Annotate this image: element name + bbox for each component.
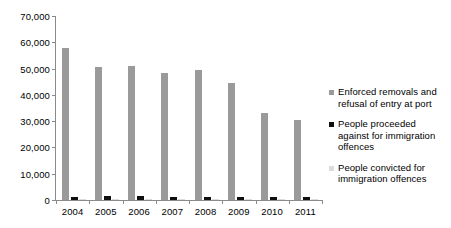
- bar-series2-2005: [104, 196, 111, 200]
- x-axis-tick-mark: [56, 200, 57, 204]
- bar-chart: 010,00020,00030,00040,00050,00060,00070,…: [0, 0, 451, 228]
- legend-swatch-icon-series2: [329, 122, 334, 127]
- bar-series3-2010: [278, 199, 285, 200]
- x-axis-label-2008: 2008: [195, 206, 217, 217]
- x-axis-tick-mark: [289, 200, 290, 204]
- x-axis-tick-mark: [89, 200, 90, 204]
- y-axis-tick-label: 70,000: [20, 11, 56, 22]
- bar-series2-2004: [71, 197, 78, 200]
- chart-legend: Enforced removals and refusal of entry a…: [329, 86, 449, 194]
- bar-group: [189, 16, 222, 200]
- y-axis-tick-label: 40,000: [20, 89, 56, 100]
- x-axis-tick-mark: [156, 200, 157, 204]
- legend-swatch-icon-series3: [329, 166, 334, 171]
- x-axis-label-2011: 2011: [295, 206, 316, 217]
- bar-series2-2008: [204, 197, 211, 200]
- bar-series2-2006: [137, 196, 144, 200]
- bar-series1-2010: [261, 113, 268, 200]
- x-axis-label-2005: 2005: [95, 206, 117, 217]
- bar-series3-2011: [311, 199, 318, 200]
- bar-series3-2007: [178, 199, 185, 200]
- bar-group: [256, 16, 289, 200]
- bar-group: [89, 16, 122, 200]
- bar-group: [289, 16, 322, 200]
- legend-item-people-convicted: People convicted for immigration offence…: [329, 162, 449, 185]
- bar-series2-2011: [303, 197, 310, 200]
- bar-series2-2007: [170, 197, 177, 200]
- bar-group: [123, 16, 156, 200]
- x-axis-tick-mark: [256, 200, 257, 204]
- bar-series3-2008: [212, 199, 219, 200]
- y-axis-tick-label: 10,000: [20, 168, 56, 179]
- x-axis-label-2010: 2010: [261, 206, 283, 217]
- legend-label-series3: People convicted for immigration offence…: [338, 162, 449, 185]
- bar-series2-2009: [237, 197, 244, 200]
- bar-series1-2008: [195, 70, 202, 200]
- bar-series1-2005: [95, 67, 102, 200]
- bar-group: [156, 16, 189, 200]
- bar-series1-2006: [128, 66, 135, 200]
- bar-group: [222, 16, 255, 200]
- y-axis-tick-label: 50,000: [20, 63, 56, 74]
- x-axis-label-2004: 2004: [62, 206, 84, 217]
- x-axis-label-2006: 2006: [128, 206, 150, 217]
- y-axis-tick-label: 30,000: [20, 116, 56, 127]
- bar-series1-2011: [294, 120, 301, 200]
- bar-series3-2005: [112, 199, 119, 200]
- legend-label-series1: Enforced removals and refusal of entry a…: [338, 86, 449, 109]
- legend-item-enforced-removals: Enforced removals and refusal of entry a…: [329, 86, 449, 109]
- x-axis-tick-mark: [322, 200, 323, 204]
- bar-series3-2004: [79, 199, 86, 200]
- legend-label-series2: People proceeded against for immigration…: [338, 118, 449, 153]
- y-axis-tick-label: 0: [45, 195, 56, 206]
- x-axis-label-2007: 2007: [162, 206, 184, 217]
- bar-series3-2006: [145, 199, 152, 200]
- bar-series1-2007: [161, 73, 168, 200]
- plot-area: 010,00020,00030,00040,00050,00060,00070,…: [56, 16, 322, 200]
- legend-swatch-icon-series1: [329, 90, 334, 95]
- bar-series1-2009: [228, 83, 235, 200]
- y-axis-tick-label: 20,000: [20, 142, 56, 153]
- x-axis-tick-mark: [189, 200, 190, 204]
- x-axis-label-2009: 2009: [228, 206, 250, 217]
- bar-group: [56, 16, 89, 200]
- bar-series3-2009: [245, 199, 252, 200]
- x-axis-tick-mark: [123, 200, 124, 204]
- bar-series1-2004: [62, 48, 69, 200]
- bar-series2-2010: [270, 197, 277, 200]
- x-axis-tick-mark: [222, 200, 223, 204]
- y-axis-tick-label: 60,000: [20, 37, 56, 48]
- legend-item-people-proceeded-against: People proceeded against for immigration…: [329, 118, 449, 153]
